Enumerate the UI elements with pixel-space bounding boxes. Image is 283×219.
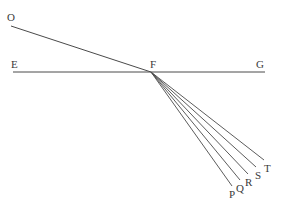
segment-FS <box>151 72 256 167</box>
label-O: O <box>7 11 15 23</box>
segment-FP <box>151 72 232 186</box>
segment-FR <box>151 72 248 174</box>
label-S: S <box>255 169 261 181</box>
ray-diagram: O E F G P Q R S T <box>0 0 283 219</box>
label-G: G <box>256 58 264 70</box>
label-E: E <box>11 58 18 70</box>
label-T: T <box>264 162 271 174</box>
label-Q: Q <box>236 182 244 194</box>
segment-FQ <box>151 72 240 180</box>
label-F: F <box>150 58 156 70</box>
segment-OF <box>11 26 151 72</box>
label-R: R <box>245 176 253 188</box>
segment-FT <box>151 72 264 160</box>
label-P: P <box>229 188 235 200</box>
